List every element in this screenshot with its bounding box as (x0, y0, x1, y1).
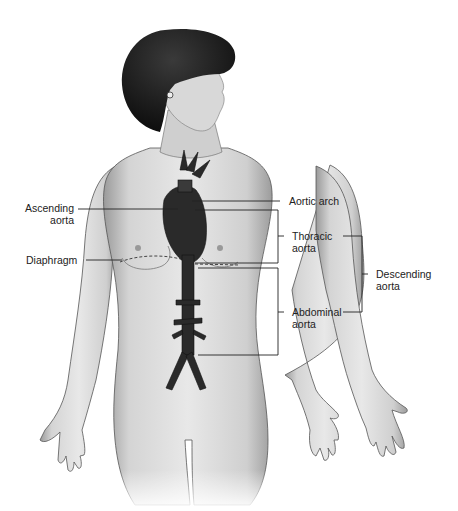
label-descending-aorta: Descending aorta (376, 268, 431, 292)
label-line: aorta (376, 280, 431, 292)
label-line: Ascending (22, 202, 74, 214)
label-line: aorta (292, 242, 332, 254)
label-line: Abdominal (292, 306, 342, 318)
label-thoracic-aorta: Thoracic aorta (292, 230, 332, 254)
label-line: Diaphragm (26, 254, 77, 266)
label-line: Thoracic (292, 230, 332, 242)
label-diaphragm: Diaphragm (26, 254, 77, 266)
label-ascending-aorta: Ascending aorta (22, 202, 74, 226)
label-line: aorta (22, 214, 74, 226)
label-aortic-arch: Aortic arch (289, 195, 339, 207)
label-abdominal-aorta: Abdominal aorta (292, 306, 342, 330)
label-line: Descending (376, 268, 431, 280)
label-line: Aortic arch (289, 195, 339, 207)
label-line: aorta (292, 318, 342, 330)
earring (167, 92, 173, 98)
